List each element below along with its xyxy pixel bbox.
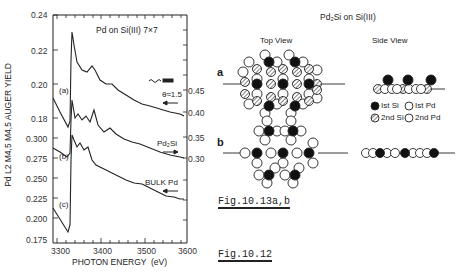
x-tick-3400: 3400 — [93, 246, 112, 256]
curve-label-a: (a) — [59, 86, 69, 95]
plot-title: Pd on Si(III) 7×7 — [96, 25, 158, 35]
legend-2nd-si: 2nd Si — [381, 113, 404, 122]
top-view-a — [238, 50, 322, 118]
side-view-b — [362, 149, 439, 158]
legend-1st-pd-icon — [405, 102, 413, 110]
legend-1st-si: Ist Si — [381, 101, 399, 110]
legend-2nd-pd-icon — [405, 114, 413, 122]
curve-label-b: (b) — [59, 152, 69, 161]
legend-1st-pd: Ist Pd — [415, 101, 435, 110]
curve-b — [53, 100, 184, 158]
caption-fig-10-13: Fig.10.13a,b — [218, 196, 290, 207]
x-axis-label: PHOTON ENERGY (eV) — [72, 257, 167, 267]
legend-1st-si-icon — [371, 102, 379, 110]
theta-annotation: θ≈1.5 — [162, 90, 182, 99]
x-tick-3300: 3300 — [51, 246, 70, 256]
spectra-figure: Pd L2 M4,5 M4,5 AUGER YIELD 0.24 0.22 0.… — [0, 0, 205, 275]
x-tick-3500: 3500 — [137, 246, 156, 256]
bulk-pd-annotation: BULK Pd — [145, 178, 178, 187]
side-view-a — [374, 75, 437, 94]
legend-2nd-pd: 2nd Pd — [415, 113, 440, 122]
caption-fig-10-12: Fig.10.12 — [218, 249, 272, 260]
curve-label-c: (c) — [59, 200, 68, 209]
x-tick-3600: 3600 — [178, 246, 197, 256]
top-view-b — [240, 116, 318, 188]
legend-2nd-si-icon — [371, 114, 379, 122]
pd2si-annotation: Pd₂Si — [157, 139, 177, 148]
spectra-plot — [0, 0, 205, 275]
